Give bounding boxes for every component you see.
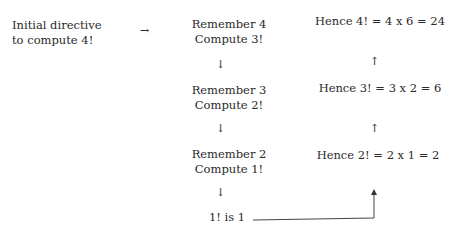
return-connector xyxy=(0,0,458,239)
connector-horizontal-line xyxy=(253,218,374,220)
connector-arrowhead-icon xyxy=(371,189,377,195)
